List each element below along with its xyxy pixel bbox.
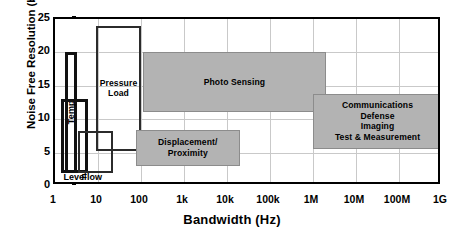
y-tick-label: 15: [26, 79, 50, 89]
region-communications-defense-imaging-test: Communications Defense Imaging Test & Me…: [313, 94, 440, 149]
x-tick-label: 1G: [420, 193, 460, 205]
y-tick-label: 10: [26, 112, 50, 122]
region-photo-sensing: Photo Sensing: [143, 52, 326, 112]
x-tick-label: 1M: [291, 193, 331, 205]
x-tick-label: 100M: [377, 193, 417, 205]
region-flow: [78, 131, 112, 173]
region-displacement-proximity: Displacement/ Proximity: [136, 130, 240, 166]
region-label-pressure-load: Pressure Load: [100, 78, 138, 99]
y-tick-label: 0: [26, 179, 50, 189]
x-tick-label: 100k: [248, 193, 288, 205]
noise-free-resolution-vs-bandwidth-chart: Noise Free Resolution (bits) 0510152025 …: [0, 0, 464, 245]
plot-area: TempLevelPressure LoadFlowPhoto SensingD…: [53, 17, 440, 184]
region-label-photo-sensing: Photo Sensing: [204, 77, 265, 88]
region-label-displacement-proximity: Displacement/ Proximity: [158, 137, 218, 158]
y-axis-tick-labels: 0510152025: [22, 0, 50, 245]
x-axis-title: Bandwidth (Hz): [0, 212, 464, 227]
x-tick-label: 1: [33, 193, 73, 205]
y-tick-label: 25: [26, 12, 50, 22]
region-label-flow: Flow: [81, 172, 102, 182]
x-tick-label: 100: [119, 193, 159, 205]
y-tick-label: 20: [26, 45, 50, 55]
x-tick-label: 10: [76, 193, 116, 205]
x-tick-label: 10k: [205, 193, 245, 205]
y-tick-label: 5: [26, 146, 50, 156]
x-tick-label: 10M: [334, 193, 374, 205]
x-tick-label: 1k: [162, 193, 202, 205]
region-label-communications-defense-imaging-test: Communications Defense Imaging Test & Me…: [335, 100, 420, 142]
